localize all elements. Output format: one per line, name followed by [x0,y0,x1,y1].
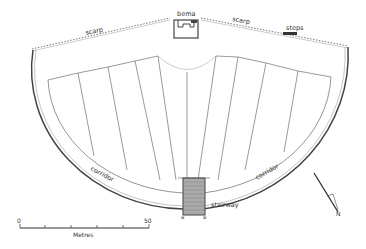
steps-marker [283,32,297,35]
scarp-line [32,18,348,51]
svg-text:⊠: ⊠ [181,215,184,220]
stairway-label: stairway [211,201,239,209]
north-label: N [336,210,341,217]
scale-bar: 0 50 Metres [17,217,152,238]
scale-start-label: 0 [17,217,21,224]
bema [174,20,198,38]
stairway[interactable]: ⊠ ⊠ [178,178,210,220]
scale-end-label: 50 [144,217,152,224]
svg-text:⊠: ⊠ [203,215,206,220]
corridor-label-right: corridor [254,162,280,182]
scale-unit-label: Metres [73,231,93,238]
radial-dividers [78,56,298,180]
scarp-label-left: scarp [85,25,104,37]
bema-label: bema [177,10,195,18]
cavea-top-edge [48,56,331,80]
theatre-plan: ⊠ ⊠ scarp bema scarp steps corridor corr… [0,0,366,249]
north-arrow-icon: N [314,173,341,217]
corridor-inner-wall [48,77,331,193]
steps-label: steps [286,24,304,32]
